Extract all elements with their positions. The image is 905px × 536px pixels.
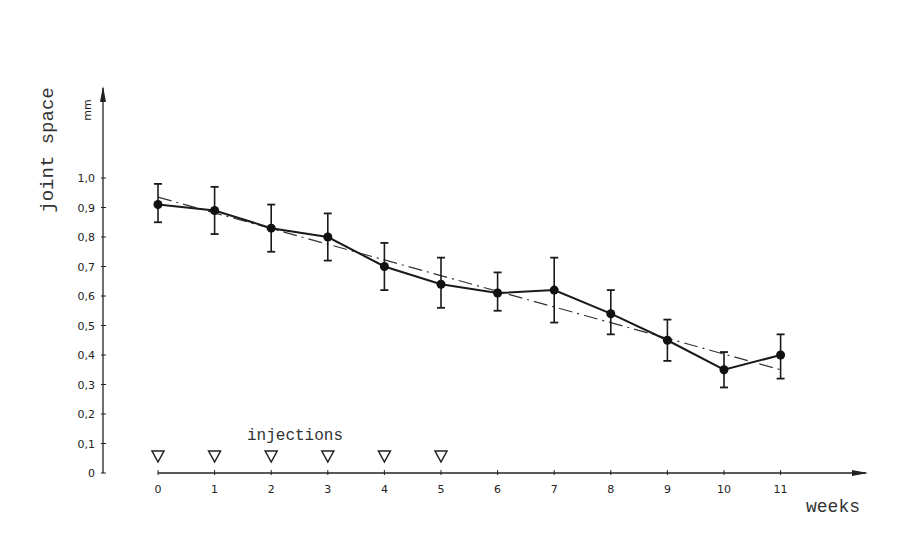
data-point (663, 320, 672, 361)
data-point (323, 213, 332, 260)
injection-triangle-icon (209, 451, 221, 462)
y-tick-label: 0,8 (78, 231, 96, 244)
axes (103, 88, 866, 473)
data-point (267, 205, 276, 252)
x-tick-label: 2 (268, 483, 275, 496)
x-axis-title: weeks (806, 497, 860, 517)
data-point (606, 290, 615, 334)
y-tick-label: 0,2 (78, 408, 96, 421)
data-point (720, 352, 729, 387)
x-tick-label: 10 (717, 483, 731, 496)
injection-triangle-icon (152, 451, 164, 462)
data-point (210, 187, 219, 234)
x-tick-label: 3 (324, 483, 331, 496)
y-axis-unit: mm (81, 99, 94, 120)
regression-line-path (158, 197, 781, 370)
x-tick-label: 9 (664, 483, 671, 496)
injections-label: injections (247, 427, 343, 445)
x-tick-label: 6 (494, 483, 501, 496)
data-point (493, 272, 502, 310)
injection-triangle-icon (265, 451, 277, 462)
y-tick-label: 1,0 (78, 172, 96, 185)
injection-triangle-icon (378, 451, 390, 462)
y-axis-title: joint space (37, 87, 59, 212)
series-line (158, 205, 781, 370)
x-tick-label: 8 (607, 483, 614, 496)
y-tick-label: 0,6 (78, 290, 96, 303)
x-tick-label: 4 (381, 483, 388, 496)
x-tick-label: 7 (551, 483, 558, 496)
regression-line (158, 197, 781, 370)
y-tick-label: 0,5 (78, 320, 96, 333)
y-tick-label: 0 (88, 467, 95, 480)
injection-triangle-icon (435, 451, 447, 462)
y-tick-label: 0,1 (78, 438, 96, 451)
y-tick-label: 0,9 (78, 202, 96, 215)
x-tick-label: 11 (774, 483, 788, 496)
data-series (154, 184, 786, 388)
data-point (154, 184, 163, 222)
injection-markers (152, 451, 447, 462)
data-point (380, 243, 389, 290)
x-tick-label: 1 (211, 483, 218, 496)
data-point (550, 258, 559, 323)
y-tick-label: 0,3 (78, 379, 96, 392)
data-point (437, 258, 446, 308)
ticks: 00,10,20,30,40,50,60,70,80,91,0012345678… (78, 172, 788, 496)
injection-triangle-icon (322, 451, 334, 462)
chart: joint space mm 00,10,20,30,40,50,60,70,8… (0, 0, 905, 536)
x-tick-label: 5 (438, 483, 445, 496)
data-point (776, 334, 785, 378)
y-tick-label: 0,7 (78, 261, 96, 274)
y-tick-label: 0,4 (78, 349, 96, 362)
x-tick-label: 0 (155, 483, 162, 496)
